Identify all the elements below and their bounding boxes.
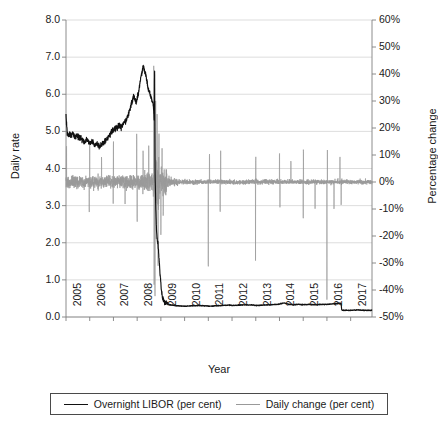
y-axis-left-tick-label: 8.0 [18, 13, 60, 25]
legend-item[interactable]: Overnight LIBOR (per cent) [64, 398, 222, 410]
y-axis-left-tick-label: 7.0 [18, 50, 60, 62]
legend-label: Overnight LIBOR (per cent) [94, 398, 222, 410]
x-axis-tick-label: 2009 [166, 283, 178, 323]
series-overnight-libor [66, 65, 372, 310]
y-axis-right-tick-label: -20% [379, 229, 425, 241]
y-axis-right-tick-label: 30% [379, 94, 425, 106]
y-axis-right-tick-label: 10% [379, 148, 425, 160]
y-axis-right-tick-label: -40% [379, 283, 425, 295]
y-axis-right-tick-label: 20% [379, 121, 425, 133]
y-axis-right-tick-label: -10% [379, 202, 425, 214]
x-axis-tick-label: 2007 [118, 283, 130, 323]
x-axis-tick-label: 2010 [190, 283, 202, 323]
legend-item[interactable]: Daily change (per cent) [236, 398, 375, 410]
x-axis-tick-label: 2006 [95, 283, 107, 323]
legend-label: Daily change (per cent) [266, 398, 375, 410]
y-axis-right-tick-label: -30% [379, 256, 425, 268]
x-axis-tick-label: 2012 [237, 283, 249, 323]
legend-line-icon [236, 404, 260, 405]
x-axis-tick-label: 2005 [71, 283, 83, 323]
y-axis-right-tick-label: 60% [379, 13, 425, 25]
gridlines [66, 20, 372, 317]
y-axis-right-tick-label: 40% [379, 67, 425, 79]
x-axis-title: Year [66, 363, 372, 375]
x-axis-tick-label: 2015 [308, 283, 320, 323]
x-axis-tick-label: 2008 [142, 283, 154, 323]
chart-legend: Overnight LIBOR (per cent)Daily change (… [50, 393, 388, 415]
y-axis-left-tick-label: 3.0 [18, 199, 60, 211]
x-axis-tick-label: 2013 [261, 283, 273, 323]
x-axis-tick-label: 2016 [332, 283, 344, 323]
y-axis-left-tick-label: 1.0 [18, 273, 60, 285]
y-axis-right-tick-label: 0% [379, 175, 425, 187]
y-axis-right-tick-label: -50% [379, 310, 425, 322]
x-axis-tick-label: 2011 [213, 283, 225, 323]
legend-line-icon [64, 404, 88, 405]
y-axis-left-tick-label: 4.0 [18, 162, 60, 174]
y-axis-left-tick-label: 2.0 [18, 236, 60, 248]
x-axis-tick-label: 2017 [356, 283, 368, 323]
x-axis-tick-label: 2014 [284, 283, 296, 323]
y-axis-right-tick-label: 50% [379, 40, 425, 52]
series-daily-change [66, 66, 372, 300]
y-axis-left-tick-label: 5.0 [18, 124, 60, 136]
y-axis-left-tick-label: 0.0 [18, 310, 60, 322]
axis-tick-marks [62, 20, 376, 321]
y-axis-right-title: Percentage change [426, 96, 438, 216]
y-axis-left-tick-label: 6.0 [18, 87, 60, 99]
